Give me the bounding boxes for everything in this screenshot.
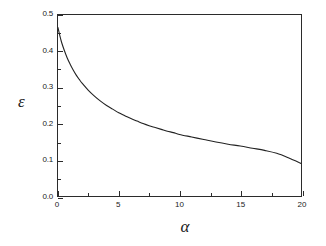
x-tick-label: 15 [226,201,256,209]
x-tick-major [241,191,242,196]
y-tick-major [58,51,63,52]
x-tick-label: 0 [42,201,72,209]
y-tick-minor [58,106,61,107]
y-tick-label: 0.5 [3,10,53,18]
plot-area [57,14,302,197]
x-tick-label: 5 [103,201,133,209]
x-tick-label: 10 [165,201,195,209]
x-axis-title-text: α [181,218,190,235]
x-axis-title: α [0,218,326,235]
x-tick-major [58,191,59,196]
x-tick-label: 20 [287,201,317,209]
y-tick-minor [58,179,61,180]
y-tick-major [58,161,63,162]
y-tick-major [58,124,63,125]
x-tick-major [119,191,120,196]
y-axis-title: ε [18,93,25,110]
data-curve [58,15,301,196]
curve-path [58,28,301,164]
x-tick-major [180,191,181,196]
y-tick-major [58,198,63,199]
x-tick-major [303,191,304,196]
y-tick-major [58,15,63,16]
y-tick-label: 0.1 [3,156,53,164]
y-tick-minor [58,143,61,144]
x-tick-minor [211,193,212,196]
x-tick-minor [149,193,150,196]
y-tick-minor [58,33,61,34]
y-tick-label: 0.4 [3,47,53,55]
y-tick-minor [58,69,61,70]
y-tick-label: 0.0 [3,193,53,201]
y-tick-major [58,88,63,89]
x-tick-minor [272,193,273,196]
x-tick-minor [88,193,89,196]
y-tick-label: 0.2 [3,120,53,128]
figure: 0.00.10.20.30.40.5 05101520 ε α [0,0,326,246]
y-tick-label: 0.3 [3,83,53,91]
